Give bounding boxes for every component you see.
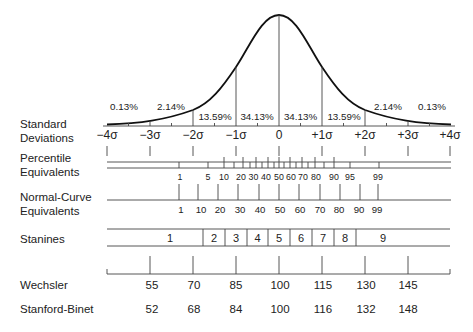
stanine-label: 5 bbox=[276, 232, 282, 244]
stanine-label: 1 bbox=[167, 232, 173, 244]
percentile-label: 40 bbox=[261, 172, 271, 182]
row-label-normal-curve-equivalents: Normal-Curve bbox=[20, 191, 92, 203]
percentile-label: 1 bbox=[178, 172, 183, 182]
percentile-label: 10 bbox=[219, 172, 229, 182]
nce-label: 60 bbox=[295, 204, 306, 215]
nce-scale: 1 10 20 30 40 50 60 70 80 90 99 bbox=[107, 184, 451, 215]
row-label-normal-curve-equivalents: Equivalents bbox=[20, 205, 80, 217]
percentile-label: 95 bbox=[345, 172, 355, 182]
stanford-binet-label: 68 bbox=[188, 303, 201, 315]
stanford-binet-label: 116 bbox=[314, 303, 332, 315]
sd-tick-label: −1σ bbox=[225, 128, 247, 142]
percentile-label: 90 bbox=[329, 172, 339, 182]
stanine-label: 2 bbox=[211, 232, 217, 244]
wechsler-label: 70 bbox=[188, 279, 201, 291]
nce-label: 99 bbox=[372, 204, 383, 215]
stanford-binet-label: 52 bbox=[146, 303, 159, 315]
area-percent-label: 34.13% bbox=[284, 111, 318, 122]
area-percent-label: 2.14% bbox=[374, 101, 402, 112]
nce-label: 80 bbox=[334, 204, 345, 215]
sd-tick-label: +3σ bbox=[397, 128, 419, 142]
sd-scale: −4σ −3σ −2σ −1σ 0 +1σ +2σ +3σ +4σ bbox=[96, 128, 461, 156]
percentile-label: 70 bbox=[298, 172, 308, 182]
stanine-label: 6 bbox=[298, 232, 304, 244]
stanine-label: 3 bbox=[233, 232, 239, 244]
stanine-label: 9 bbox=[380, 232, 386, 244]
percentile-label: 80 bbox=[311, 172, 321, 182]
area-percent-label: 2.14% bbox=[157, 101, 185, 112]
percentile-label: 60 bbox=[286, 172, 296, 182]
sd-tick-label: 0 bbox=[276, 128, 283, 142]
nce-label: 50 bbox=[275, 204, 286, 215]
percentile-label: 50 bbox=[274, 172, 284, 182]
sd-tick-label: −2σ bbox=[182, 128, 204, 142]
area-percent-label: 13.59% bbox=[198, 111, 232, 122]
stanford-binet-label: 100 bbox=[270, 303, 289, 315]
nce-label: 90 bbox=[354, 204, 365, 215]
percentile-label: 20 bbox=[236, 172, 246, 182]
wechsler-label: 130 bbox=[356, 279, 375, 291]
wechsler-label: 115 bbox=[314, 279, 332, 291]
wechsler-label: 55 bbox=[146, 279, 159, 291]
nce-label: 10 bbox=[196, 204, 207, 215]
area-percent-label: 34.13% bbox=[240, 111, 274, 122]
stanford-binet-label: 132 bbox=[356, 303, 375, 315]
nce-label: 20 bbox=[215, 204, 226, 215]
iq-scale: 55 70 85 100 115 130 145 52 68 84 100 11… bbox=[107, 256, 450, 315]
nce-label: 1 bbox=[178, 204, 183, 215]
sd-tick-label: −4σ bbox=[96, 128, 118, 142]
row-label-standard-deviations: Standard bbox=[20, 118, 67, 130]
nce-label: 30 bbox=[235, 204, 246, 215]
percentile-label: 30 bbox=[249, 172, 259, 182]
stanine-label: 7 bbox=[320, 232, 326, 244]
row-label-percentile-equivalents: Equivalents bbox=[20, 166, 80, 178]
row-label-percentile-equivalents: Percentile bbox=[20, 152, 71, 164]
nce-label: 40 bbox=[255, 204, 266, 215]
area-percent-label: 0.13% bbox=[418, 101, 446, 112]
wechsler-label: 100 bbox=[270, 279, 289, 291]
sd-tick-label: +1σ bbox=[311, 128, 333, 142]
percentile-scale: 1 5 10 20 30 40 50 60 70 80 90 95 99 bbox=[107, 157, 451, 182]
normal-curve-group: 0.13% 2.14% 13.59% 34.13% 34.13% 13.59% … bbox=[103, 15, 455, 126]
sd-tick-label: +4σ bbox=[439, 128, 461, 142]
row-label-stanines: Stanines bbox=[20, 233, 65, 245]
wechsler-label: 145 bbox=[398, 279, 417, 291]
stanine-scale: 1 2 3 4 5 6 7 8 9 bbox=[107, 229, 450, 246]
sd-tick-label: +2σ bbox=[354, 128, 376, 142]
nce-label: 70 bbox=[315, 204, 326, 215]
wechsler-label: 85 bbox=[230, 279, 243, 291]
percentile-label: 99 bbox=[373, 172, 383, 182]
area-percent-label: 0.13% bbox=[110, 101, 138, 112]
stanine-label: 8 bbox=[342, 232, 348, 244]
sd-tick-label: −3σ bbox=[139, 128, 161, 142]
row-label-wechsler: Wechsler bbox=[20, 279, 68, 291]
row-label-standard-deviations: Deviations bbox=[20, 132, 74, 144]
stanine-label: 4 bbox=[254, 232, 260, 244]
row-labels: Standard Deviations Percentile Equivalen… bbox=[20, 118, 94, 315]
stanford-binet-label: 84 bbox=[230, 303, 243, 315]
row-label-stanford-binet: Stanford-Binet bbox=[20, 303, 94, 315]
percentile-label: 5 bbox=[206, 172, 211, 182]
stanford-binet-label: 148 bbox=[398, 303, 417, 315]
area-percent-label: 13.59% bbox=[327, 111, 361, 122]
normal-curve-chart: 0.13% 2.14% 13.59% 34.13% 34.13% 13.59% … bbox=[0, 0, 473, 332]
